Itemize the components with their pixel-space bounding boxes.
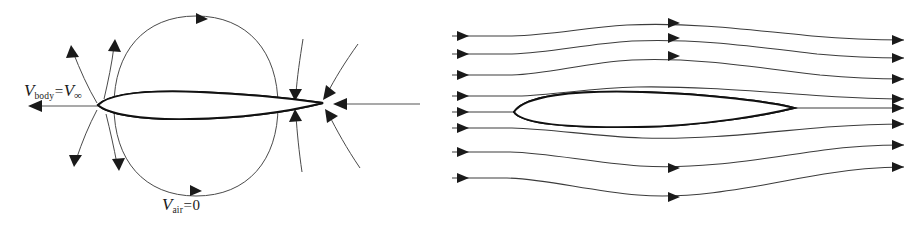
- streamlines-lower: [452, 119, 904, 202]
- panel-body-moving-canvas: [0, 0, 452, 232]
- streamlines-upper: [452, 18, 904, 104]
- label-body-velocity: Vbody=V∞: [24, 82, 82, 102]
- panel-air-moving: Vair=V∞ Vbody=0: [452, 0, 905, 232]
- air-velocity-symbol: V: [162, 195, 172, 214]
- velocity-subscript: body: [34, 91, 54, 101]
- air-velocity-value: 0: [192, 197, 200, 213]
- label-air-at-rest: Vair=0: [162, 196, 200, 216]
- equals-sign: =: [54, 83, 63, 99]
- oval-arrow-bottom: [190, 185, 202, 196]
- freestream-arrow-right: [333, 98, 420, 110]
- oval-arrow-top: [196, 13, 208, 24]
- air-velocity-subscript: air: [172, 205, 183, 215]
- velocity-symbol: V: [24, 81, 34, 100]
- freestream-symbol: V: [64, 81, 74, 100]
- freestream-subscript: ∞: [74, 89, 82, 101]
- body-velocity-arrow: [28, 100, 98, 112]
- panel-air-moving-canvas: [452, 0, 905, 232]
- airfoil-body-right: [507, 85, 802, 133]
- figure-root: Vbody=V∞ Vair=0: [0, 0, 905, 232]
- panel-body-moving: Vbody=V∞ Vair=0: [0, 0, 452, 232]
